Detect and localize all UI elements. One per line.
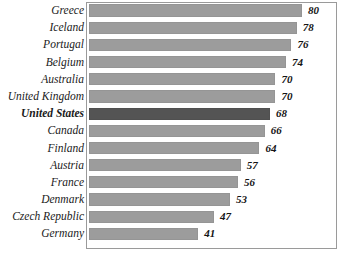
- bar-category-label: Germany: [41, 225, 84, 242]
- bar-value-label: 41: [204, 225, 215, 242]
- bar: [89, 176, 238, 188]
- bar: [89, 39, 291, 51]
- bar-category-label: Finland: [48, 140, 84, 157]
- bar: [89, 228, 198, 240]
- bar-value-label: 78: [303, 19, 314, 36]
- bar-category-label: Belgium: [46, 54, 84, 71]
- bar-track: [89, 73, 335, 85]
- bar-row: Australia70: [0, 71, 346, 88]
- bar-category-label: Czech Republic: [12, 208, 84, 225]
- bar-row: Austria57: [0, 157, 346, 174]
- bar-row: Greece80: [0, 2, 346, 19]
- bar-value-label: 76: [297, 36, 308, 53]
- bar-track: [89, 211, 335, 223]
- bar-track: [89, 90, 335, 102]
- bar-row: Finland64: [0, 140, 346, 157]
- bar-value-label: 70: [281, 71, 292, 88]
- bar: [89, 125, 265, 137]
- bar-category-label: Australia: [41, 71, 84, 88]
- bar-track: [89, 142, 335, 154]
- bar-value-label: 56: [244, 174, 255, 191]
- bar-track: [89, 4, 335, 16]
- bar-chart: Greece80Iceland78Portugal76Belgium74Aust…: [0, 0, 346, 260]
- bar-value-label: 47: [220, 208, 231, 225]
- bar-value-label: 70: [281, 88, 292, 105]
- bar: [89, 211, 214, 223]
- bar-row: Germany41: [0, 225, 346, 242]
- bar: [89, 4, 302, 16]
- bar-row: Belgium74: [0, 54, 346, 71]
- bar-rows: Greece80Iceland78Portugal76Belgium74Aust…: [0, 2, 346, 249]
- bar-category-label: Iceland: [50, 19, 84, 36]
- bar-value-label: 80: [308, 2, 319, 19]
- bar: [89, 90, 275, 102]
- bar: [89, 73, 275, 85]
- bar: [89, 142, 259, 154]
- bar-track: [89, 159, 335, 171]
- bar-track: [89, 22, 335, 34]
- bar-row: United Kingdom70: [0, 88, 346, 105]
- bar-row: Denmark53: [0, 191, 346, 208]
- bar-track: [89, 176, 335, 188]
- bar: [89, 22, 297, 34]
- bar-row: United States68: [0, 105, 346, 122]
- bar: [89, 56, 286, 68]
- bar-category-label: United Kingdom: [8, 88, 84, 105]
- bar-category-label: Greece: [51, 2, 84, 19]
- bar-value-label: 53: [236, 191, 247, 208]
- bar-row: Czech Republic47: [0, 208, 346, 225]
- bar-row: Iceland78: [0, 19, 346, 36]
- bar-category-label: Canada: [48, 122, 84, 139]
- bar-category-label: France: [51, 174, 84, 191]
- bar: [89, 193, 230, 205]
- bar-value-label: 57: [247, 157, 258, 174]
- bar-row: France56: [0, 174, 346, 191]
- bar-row: Canada66: [0, 122, 346, 139]
- bar-track: [89, 193, 335, 205]
- bar-value-label: 64: [265, 140, 276, 157]
- bar: [89, 159, 241, 171]
- bar-category-label: Portugal: [43, 36, 84, 53]
- bar-value-label: 74: [292, 54, 303, 71]
- bar-category-label: Denmark: [41, 191, 84, 208]
- bar-track: [89, 108, 335, 120]
- bar-track: [89, 125, 335, 137]
- bar-highlighted: [89, 108, 270, 120]
- bar-category-label: United States: [21, 105, 84, 122]
- bar-value-label: 68: [276, 105, 287, 122]
- bar-value-label: 66: [271, 122, 282, 139]
- bar-category-label: Austria: [50, 157, 84, 174]
- bar-row: Portugal76: [0, 36, 346, 53]
